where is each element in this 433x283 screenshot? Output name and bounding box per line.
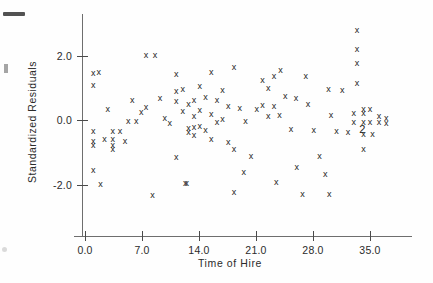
- data-point: x: [149, 191, 156, 200]
- data-point: x: [302, 72, 309, 81]
- data-point: x: [97, 180, 104, 189]
- x-axis-title: Time of Hire: [150, 257, 310, 269]
- data-point: x: [353, 26, 360, 35]
- y-tick-mark: [77, 120, 88, 121]
- data-point: x: [333, 127, 340, 136]
- data-point: x: [316, 152, 323, 161]
- data-point: x: [173, 70, 180, 79]
- data-point: x: [350, 109, 357, 118]
- data-point: x: [242, 117, 249, 126]
- x-tick-mark: [370, 231, 371, 241]
- data-point: x: [152, 51, 159, 60]
- x-tick-label: 21.0: [232, 244, 280, 256]
- data-point: x: [90, 141, 97, 150]
- x-axis-line: [74, 236, 412, 237]
- data-point: x: [109, 145, 116, 154]
- data-point: x: [166, 119, 173, 128]
- data-point: x: [179, 107, 186, 116]
- x-tick-mark: [313, 231, 314, 241]
- data-point: x: [276, 111, 283, 120]
- data-point: x: [353, 79, 360, 88]
- x-tick-mark: [199, 231, 200, 241]
- data-point: x: [353, 45, 360, 54]
- plot-area: 2.00.0-2.0 0.07.014.021.028.035.0 xxxxxx…: [0, 0, 433, 283]
- data-point: x: [101, 135, 108, 144]
- data-point: x: [117, 127, 124, 136]
- data-point: x: [259, 101, 266, 110]
- data-point: x: [219, 86, 226, 95]
- data-point: x: [287, 125, 294, 134]
- data-point: x: [230, 145, 237, 154]
- data-point: x: [208, 68, 215, 77]
- data-point: x: [90, 81, 97, 90]
- y-tick-mark: [77, 185, 88, 186]
- data-point: x: [270, 102, 277, 111]
- data-point: x: [282, 92, 289, 101]
- data-point: x: [339, 86, 346, 95]
- data-point: x: [240, 168, 247, 177]
- data-point: x: [95, 68, 102, 77]
- data-point: x: [90, 166, 97, 175]
- data-point: x: [230, 63, 237, 72]
- y-axis-line: [82, 14, 83, 236]
- scatter-plot-figure: 2.00.0-2.0 0.07.014.021.028.035.0 xxxxxx…: [0, 0, 433, 283]
- x-tick-label: 7.0: [118, 244, 166, 256]
- x-tick-mark: [85, 231, 86, 241]
- overlap-count-label: 2: [358, 124, 366, 135]
- data-point: x: [366, 118, 373, 127]
- data-point: x: [183, 179, 190, 188]
- data-point: x: [156, 94, 163, 103]
- data-point: x: [350, 118, 357, 127]
- data-point: x: [265, 84, 272, 93]
- data-point: x: [366, 105, 373, 114]
- data-point: x: [369, 130, 376, 139]
- data-point: x: [213, 96, 220, 105]
- y-tick-mark: [77, 56, 88, 57]
- data-point: x: [90, 127, 97, 136]
- data-point: x: [248, 152, 255, 161]
- x-tick-label: 0.0: [61, 244, 109, 256]
- data-point: x: [310, 126, 317, 135]
- data-point: x: [208, 135, 215, 144]
- data-point: x: [325, 85, 332, 94]
- data-point: x: [104, 105, 111, 114]
- data-point: x: [143, 103, 150, 112]
- data-point: x: [191, 131, 198, 140]
- data-point: x: [179, 85, 186, 94]
- data-point: x: [121, 137, 128, 146]
- x-tick-mark: [142, 231, 143, 241]
- data-point: x: [265, 112, 272, 121]
- data-point: x: [219, 115, 226, 124]
- data-point: x: [208, 110, 215, 119]
- data-point: x: [202, 126, 209, 135]
- data-point: x: [191, 96, 198, 105]
- x-tick-mark: [256, 231, 257, 241]
- data-point: x: [173, 153, 180, 162]
- data-point: x: [225, 102, 232, 111]
- x-tick-label: 28.0: [289, 244, 337, 256]
- x-tick-label: 35.0: [346, 244, 394, 256]
- data-point: x: [293, 163, 300, 172]
- data-point: x: [202, 93, 209, 102]
- data-point: x: [129, 96, 136, 105]
- data-point: x: [143, 51, 150, 60]
- data-point: x: [196, 106, 203, 115]
- data-point: x: [326, 190, 333, 199]
- data-point: x: [305, 100, 312, 109]
- y-axis-title: Standardized Residuals: [26, 47, 38, 197]
- data-point: x: [230, 188, 237, 197]
- data-point: x: [353, 59, 360, 68]
- data-point: x: [273, 178, 280, 187]
- data-point: x: [360, 145, 367, 154]
- data-point: x: [375, 118, 382, 127]
- data-point: x: [327, 111, 334, 120]
- data-point: x: [383, 119, 390, 128]
- data-point: x: [133, 117, 140, 126]
- data-point: x: [236, 104, 243, 113]
- data-point: x: [196, 82, 203, 91]
- data-point: x: [292, 94, 299, 103]
- data-point: x: [125, 117, 132, 126]
- data-point: x: [299, 190, 306, 199]
- data-point: x: [322, 170, 329, 179]
- data-point: x: [173, 97, 180, 106]
